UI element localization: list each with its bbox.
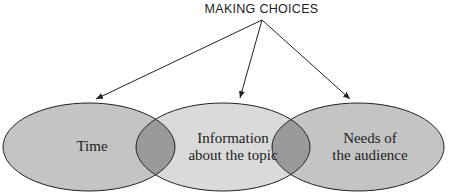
label-time: Time	[52, 138, 132, 155]
label-needs-of-audience: Needs of the audience	[315, 130, 425, 164]
diagram-title: MAKING CHOICES	[0, 2, 449, 16]
arrows	[96, 20, 350, 99]
label-information: Information about the topic	[168, 130, 298, 164]
